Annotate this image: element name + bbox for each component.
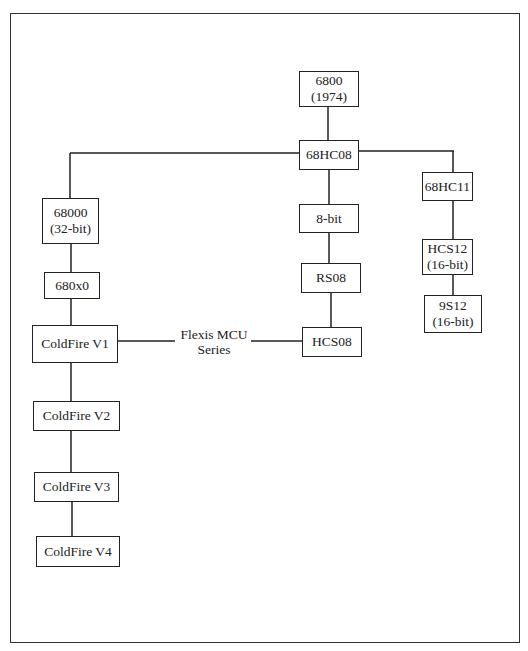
node-label: 8-bit (316, 211, 342, 227)
node-68000: 68000 (32-bit) (42, 198, 99, 244)
node-coldfire-v1: ColdFire V1 (32, 325, 118, 363)
node-sublabel: (16-bit) (432, 314, 473, 330)
node-coldfire-v3: ColdFire V3 (34, 472, 119, 502)
node-label: 680x0 (55, 278, 89, 294)
node-label: 6800 (316, 73, 343, 89)
node-sublabel: (16-bit) (427, 257, 468, 273)
node-680x0: 680x0 (44, 272, 100, 299)
node-label: ColdFire V1 (41, 336, 109, 352)
edge-label-flexis: Flexis MCU Series (176, 327, 252, 357)
node-6800: 6800 (1974) (299, 71, 359, 107)
node-label: RS08 (316, 270, 346, 286)
node-9s12: 9S12 (16-bit) (424, 295, 482, 333)
node-68hc08: 68HC08 (299, 140, 359, 170)
node-coldfire-v2: ColdFire V2 (33, 401, 120, 431)
node-label: ColdFire V2 (43, 408, 111, 424)
node-label: ColdFire V4 (44, 544, 112, 560)
edge-label-line2: Series (176, 342, 252, 357)
node-label: 9S12 (439, 298, 467, 314)
node-68hc11: 68HC11 (422, 172, 473, 201)
node-8-bit: 8-bit (299, 204, 359, 233)
node-label: 68HC08 (306, 147, 352, 163)
node-label: HCS08 (312, 334, 352, 350)
node-label: 68HC11 (425, 179, 470, 195)
node-rs08: RS08 (301, 263, 361, 293)
node-label: 68000 (54, 205, 88, 221)
node-label: HCS12 (428, 241, 468, 257)
node-coldfire-v4: ColdFire V4 (36, 536, 120, 567)
node-hcs08: HCS08 (302, 327, 362, 357)
edge-label-line1: Flexis MCU (176, 327, 252, 342)
node-hcs12: HCS12 (16-bit) (422, 239, 473, 275)
node-sublabel: (1974) (311, 89, 347, 105)
node-sublabel: (32-bit) (50, 221, 91, 237)
node-label: ColdFire V3 (43, 479, 111, 495)
